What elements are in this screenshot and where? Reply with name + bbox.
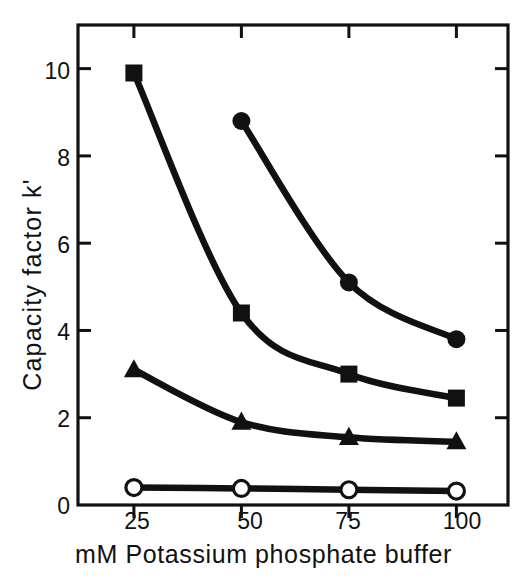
- chart-plot-area: [0, 0, 527, 580]
- open-circle-marker: [341, 482, 357, 498]
- series-line-open-circle-series: [134, 488, 457, 491]
- y-tick-label-10: 10: [28, 58, 70, 85]
- datapoint-filled-triangle-series-25: [124, 359, 144, 377]
- open-circle-marker: [233, 480, 249, 496]
- y-tick-label-0: 0: [28, 493, 70, 520]
- open-circle-marker: [448, 483, 464, 499]
- x-tick-label-0: 25: [102, 508, 172, 535]
- datapoint-open-circle-series-75: [341, 482, 357, 498]
- filled-circle-marker: [340, 273, 358, 291]
- figure-container: Capacity factor k' mM Potassium phosphat…: [0, 0, 527, 580]
- datapoint-filled-square-series-100: [448, 390, 465, 407]
- series-line-filled-circle-series: [241, 121, 456, 339]
- y-tick-label-8: 8: [28, 145, 70, 172]
- datapoint-filled-circle-series-75: [340, 273, 358, 291]
- filled-circle-marker: [447, 330, 465, 348]
- x-tick-label-2: 75: [313, 508, 383, 535]
- datapoint-filled-square-series-75: [340, 366, 357, 383]
- y-tick-label-2: 2: [28, 406, 70, 433]
- series-line-filled-square-series: [134, 73, 457, 398]
- series-line-filled-triangle-series: [134, 370, 457, 442]
- datapoint-filled-circle-series-100: [447, 330, 465, 348]
- filled-triangle-marker: [124, 359, 144, 377]
- filled-square-marker: [340, 366, 357, 383]
- datapoint-filled-square-series-25: [125, 65, 142, 82]
- datapoint-open-circle-series-25: [126, 480, 142, 496]
- y-tick-label-6: 6: [28, 232, 70, 259]
- datapoint-open-circle-series-50: [233, 480, 249, 496]
- filled-square-marker: [448, 390, 465, 407]
- x-tick-label-3: 100: [427, 508, 497, 535]
- x-axis-title: mM Potassium phosphate buffer: [0, 540, 527, 569]
- filled-circle-marker: [232, 112, 250, 130]
- datapoint-filled-square-series-50: [233, 305, 250, 322]
- datapoint-filled-circle-series-50: [232, 112, 250, 130]
- y-tick-label-4: 4: [28, 319, 70, 346]
- datapoint-open-circle-series-100: [448, 483, 464, 499]
- open-circle-marker: [126, 480, 142, 496]
- filled-square-marker: [125, 65, 142, 82]
- filled-square-marker: [233, 305, 250, 322]
- x-tick-label-1: 50: [215, 508, 285, 535]
